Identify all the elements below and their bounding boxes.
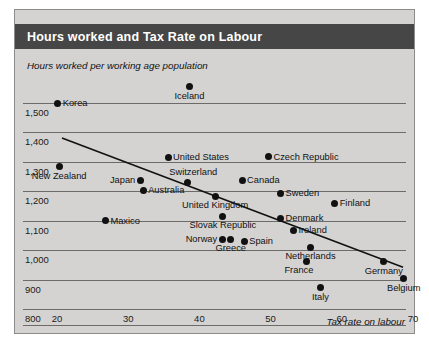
data-point (277, 190, 284, 197)
chart-figure: Hours worked and Tax Rate on Labour Hour… (14, 9, 415, 334)
data-point (54, 100, 61, 107)
data-point-label: Korea (63, 98, 88, 108)
data-point (265, 153, 272, 160)
data-point-label: Germany (365, 266, 403, 276)
data-point (184, 179, 191, 186)
data-point (137, 177, 144, 184)
data-point-label: Switzerland (169, 167, 217, 177)
data-point (212, 193, 219, 200)
data-point (317, 284, 324, 291)
data-point-label: Australia (148, 185, 184, 195)
data-point (331, 200, 338, 207)
data-point-label: United Kingdom (182, 200, 248, 210)
data-point-label: Japan (110, 175, 135, 185)
plot-area: Hours worked per working age population … (15, 10, 414, 333)
data-point (241, 238, 248, 245)
data-point (290, 227, 297, 234)
data-point-label: Netherlands (285, 251, 335, 261)
data-point-label: Iceland (174, 91, 204, 101)
data-point (307, 244, 314, 251)
data-point-label: Maxico (110, 216, 139, 226)
data-point-label: Greece (215, 243, 246, 253)
data-point-label: United States (173, 152, 229, 162)
data-point (227, 236, 234, 243)
data-point-label: Slovak Republic (190, 220, 257, 230)
data-point-label: Belgium (387, 283, 421, 293)
data-point (219, 236, 226, 243)
data-point-label: Ireland (298, 225, 326, 235)
data-point-label: New Zealand (32, 171, 87, 181)
data-point-label: France (284, 265, 313, 275)
data-point-label: Denmark (286, 213, 324, 223)
data-point (165, 154, 172, 161)
data-point (140, 187, 147, 194)
data-point-label: Spain (249, 236, 273, 246)
data-point-label: Norway (186, 234, 218, 244)
data-point-label: Finland (340, 198, 371, 208)
data-point (277, 215, 284, 222)
data-point (186, 83, 193, 90)
data-point (303, 258, 310, 265)
data-point (56, 163, 63, 170)
data-point-label: Czech Republic (273, 152, 338, 162)
data-point-label: Sweden (286, 188, 320, 198)
data-point-label: Italy (312, 292, 329, 302)
data-point (239, 177, 246, 184)
data-point-label: Canada (247, 175, 280, 185)
